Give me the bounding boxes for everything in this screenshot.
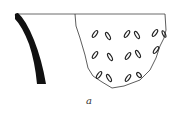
sherd-outline	[75, 14, 166, 88]
profile-section	[15, 13, 46, 84]
figure-label: a	[86, 95, 92, 106]
impressed-decoration	[91, 29, 166, 82]
